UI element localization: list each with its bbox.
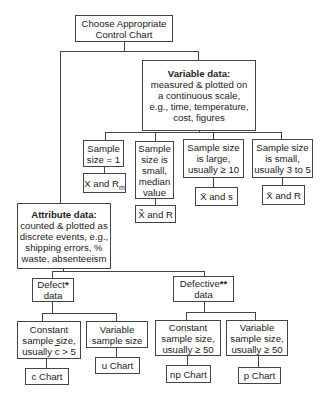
chart-label: X̄ and s <box>200 191 233 202</box>
attribute-data-title: Attribute data: <box>31 209 97 220</box>
condition-line: sample size, <box>161 333 214 344</box>
connector <box>281 132 282 139</box>
chart-label: u Chart <box>102 360 133 371</box>
connector <box>42 313 117 314</box>
chart-subscript: m <box>119 183 125 190</box>
condition-line: Sample <box>138 143 171 154</box>
condition-line: usually 3 to 5 <box>254 164 311 175</box>
np-chart-box: np Chart <box>166 365 211 383</box>
c-chart-box: c Chart <box>25 368 69 385</box>
x-bar-and-r-chart-box: X̄ and R <box>262 185 305 205</box>
variable-line-2: a continuous scale, <box>158 90 240 101</box>
cond-prefix: usually <box>22 346 55 357</box>
connector <box>186 312 256 313</box>
sample-size-small-box: Sample size is small, usually 3 to 5 <box>252 139 313 178</box>
connector <box>186 312 187 320</box>
connector <box>116 347 117 357</box>
defect-data-box: Defect* data <box>32 278 74 302</box>
sample-size-large-box: Sample size is large, usually ≥ 10 <box>183 139 244 178</box>
connector <box>198 51 199 60</box>
condition-line: is large, <box>197 153 231 164</box>
connector <box>255 312 256 320</box>
variable-line-4: cost, figures <box>173 112 225 123</box>
condition-line: usually ≥ 50 <box>231 344 282 355</box>
connector <box>52 271 205 272</box>
defective-variable-box: Variable sample size, usually ≥ 50 <box>226 320 288 356</box>
connector <box>105 132 106 140</box>
attribute-line: counted & plotted as <box>20 220 107 231</box>
condition-line: usually c > 5 <box>22 346 76 357</box>
condition-line: Variable <box>240 322 275 333</box>
connector <box>104 166 105 173</box>
x-bar-and-s-chart-box: X̄ and s <box>195 187 238 206</box>
attribute-line: shipping errors, % <box>25 242 102 253</box>
defect-variable-box: Variable sample size <box>86 321 148 348</box>
condition-line: Sample size <box>187 142 239 153</box>
connector <box>116 313 117 321</box>
condition-line: value <box>143 187 166 198</box>
condition-line: usually ≥ 10 <box>188 164 239 175</box>
chart-label: c Chart <box>32 371 63 382</box>
condition-line: size = 1 <box>87 154 120 165</box>
chart-label: X and Rm <box>84 178 125 189</box>
cond-suffix: > 5 <box>60 346 76 357</box>
connector <box>42 313 43 321</box>
condition-line: is small, <box>265 153 300 164</box>
defective-text: Defective <box>180 278 220 289</box>
connector <box>60 51 199 52</box>
chart-main: X and R <box>84 178 119 189</box>
defective-label: Defective** <box>180 278 227 289</box>
x-and-rm-chart-box: X and Rm <box>83 173 126 193</box>
root-line-2: Control Chart <box>95 29 152 40</box>
chart-label: X̃ and R <box>138 209 173 220</box>
variable-data-title: Variable data: <box>168 68 230 79</box>
condition-line: median <box>139 176 170 187</box>
defect-constant-box: Constant sample size, usually c > 5 <box>17 321 81 359</box>
condition-line: sample size, <box>22 335 75 346</box>
attribute-line: waste, absenteeism <box>22 253 107 264</box>
sample-size-1-box: Sample size = 1 <box>83 140 124 167</box>
sample-size-median-box: Sample size is small, median value <box>135 141 174 199</box>
defect-text: Defect <box>37 279 65 290</box>
connector <box>46 358 47 368</box>
condition-line: Constant <box>30 324 68 335</box>
connector <box>213 132 214 139</box>
defect-label-2: data <box>44 290 63 301</box>
variable-line-3: e.g., time, temperature, <box>149 101 248 112</box>
variable-data-box: Variable data: measured & plotted on a c… <box>142 60 256 131</box>
condition-line: sample size <box>92 335 143 346</box>
attribute-data-box: Attribute data: counted & plotted as dis… <box>17 203 111 269</box>
chart-label: np Chart <box>170 369 207 380</box>
connector <box>187 355 188 365</box>
connector <box>282 177 283 185</box>
x-tilde-and-r-chart-box: X̃ and R <box>135 205 176 223</box>
condition-line: sample size, <box>230 333 283 344</box>
condition-line: Sample size <box>256 142 308 153</box>
defective-label-2: data <box>194 289 213 300</box>
chart-label: p Chart <box>244 370 275 381</box>
root-line-1: Choose Appropriate <box>82 18 167 29</box>
defective-data-box: Defective** data <box>173 276 234 302</box>
p-chart-box: p Chart <box>238 367 281 384</box>
connector <box>155 198 156 205</box>
footnote-mark: * <box>65 279 69 290</box>
variable-line-1: measured & plotted on <box>151 79 248 90</box>
connector <box>52 271 53 278</box>
condition-line: Constant <box>169 322 207 333</box>
condition-line: size is <box>141 154 168 165</box>
footnote-mark: ** <box>220 278 227 289</box>
defective-constant-box: Constant sample size, usually ≥ 50 <box>155 320 221 356</box>
defect-label: Defect* <box>37 279 68 290</box>
condition-line: Variable <box>100 324 135 335</box>
condition-line: usually ≥ 50 <box>162 344 213 355</box>
u-chart-box: u Chart <box>95 357 140 374</box>
attribute-line: discrete events, e.g., <box>20 231 109 242</box>
connector <box>213 177 214 187</box>
condition-line: Sample <box>87 143 120 154</box>
root-box: Choose Appropriate Control Chart <box>75 15 173 42</box>
connector <box>155 132 156 141</box>
chart-label: X̄ and R <box>266 190 301 201</box>
connector <box>258 355 259 367</box>
connector <box>105 132 282 133</box>
condition-line: small, <box>142 165 167 176</box>
